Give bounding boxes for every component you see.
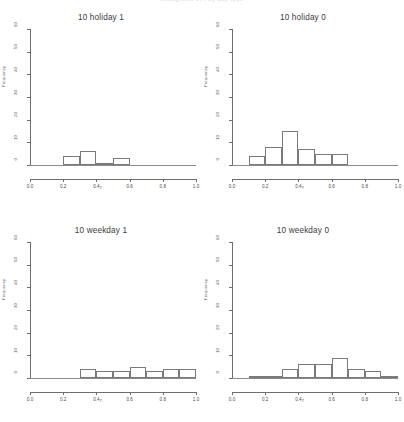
plot-area: Frequencyr01020304050600.00.20.40.60.81.…: [202, 9, 404, 205]
y-axis-tick-label: 30: [14, 90, 18, 104]
y-axis-tick: [229, 97, 232, 98]
y-axis-tick-label: 50: [14, 258, 18, 272]
histogram-baseline: [30, 165, 196, 166]
y-axis-tick: [27, 52, 30, 53]
x-axis-tick-label: 0.4: [87, 397, 105, 402]
histogram-bar: [265, 147, 282, 165]
y-axis-tick: [229, 265, 232, 266]
y-axis-tick: [27, 142, 30, 143]
x-axis-tick-label: 0.0: [21, 397, 39, 402]
y-axis-tick-label: 0: [14, 158, 18, 172]
y-axis-tick: [27, 97, 30, 98]
y-axis-tick-label: 60: [216, 235, 220, 249]
y-axis-tick-label: 40: [216, 280, 220, 294]
x-axis-tick-label: 0.4: [87, 184, 105, 189]
x-axis-tick-label: 0.2: [54, 184, 72, 189]
histogram-bar: [163, 369, 180, 378]
x-axis-tick: [298, 179, 299, 182]
x-axis-tick-label: 0.6: [323, 397, 341, 402]
x-axis-tick: [365, 179, 366, 182]
histogram-baseline: [232, 165, 398, 166]
histogram-baseline: [232, 378, 398, 379]
y-axis-tick-label: 10: [216, 135, 220, 149]
x-axis-tick: [163, 179, 164, 182]
x-axis-tick: [265, 179, 266, 182]
y-axis-tick: [229, 242, 232, 243]
x-axis-tick-label: 0.4: [289, 397, 307, 402]
x-axis-tick-label: 0.6: [323, 184, 341, 189]
x-axis-line: [232, 179, 398, 180]
x-axis-tick-label: 0.0: [223, 184, 241, 189]
x-axis-tick-label: 0.6: [121, 184, 139, 189]
x-axis-tick: [398, 179, 399, 182]
y-axis-tick-label: 50: [14, 45, 18, 59]
histogram-bar: [315, 154, 332, 165]
histogram-bar: [179, 369, 196, 378]
y-axis-line: [30, 29, 31, 165]
x-axis-tick-label: 0.8: [356, 184, 374, 189]
x-axis-tick: [30, 392, 31, 395]
x-axis-tick: [298, 392, 299, 395]
histogram-bar: [332, 358, 349, 378]
x-axis-tick: [163, 392, 164, 395]
histogram-bar: [80, 151, 97, 165]
histogram-baseline: [30, 378, 196, 379]
x-axis-tick: [196, 392, 197, 395]
y-axis-label: Frequency: [203, 279, 208, 300]
y-axis-tick: [27, 265, 30, 266]
y-axis-label: Frequency: [203, 66, 208, 87]
x-axis-tick-label: 1.0: [389, 397, 404, 402]
x-axis-tick-label: 0.0: [223, 397, 241, 402]
histogram-panel-holiday-1: 10 holiday 1 Frequencyr01020304050600.00…: [0, 9, 202, 205]
y-axis-tick: [229, 29, 232, 30]
y-axis-tick-label: 30: [14, 303, 18, 317]
x-axis-tick: [130, 392, 131, 395]
histogram-bar: [113, 371, 130, 378]
y-axis-tick-label: 0: [14, 371, 18, 385]
y-axis-tick-label: 60: [14, 235, 18, 249]
y-axis-tick: [27, 120, 30, 121]
x-axis-tick-label: 1.0: [389, 184, 404, 189]
y-axis-tick-label: 40: [14, 67, 18, 81]
y-axis-line: [30, 242, 31, 378]
y-axis-tick-label: 40: [14, 280, 18, 294]
histogram-bar: [113, 158, 130, 165]
histogram-bar: [282, 369, 299, 378]
x-axis-tick-label: 0.0: [21, 184, 39, 189]
x-axis-tick: [130, 179, 131, 182]
plot-area: Frequencyr01020304050600.00.20.40.60.81.…: [0, 222, 202, 418]
histogram-bar: [130, 367, 147, 378]
x-axis-tick: [332, 392, 333, 395]
histogram-panel-weekday-1: 10 weekday 1 Frequencyr01020304050600.00…: [0, 222, 202, 418]
x-axis-tick: [30, 179, 31, 182]
y-axis-tick-label: 20: [216, 326, 220, 340]
y-axis-tick-label: 20: [14, 326, 18, 340]
x-axis-line: [30, 392, 196, 393]
y-axis-tick: [229, 120, 232, 121]
x-axis-tick: [96, 392, 97, 395]
y-axis-tick: [27, 287, 30, 288]
x-axis-tick: [63, 392, 64, 395]
x-axis-tick-label: 0.8: [154, 184, 172, 189]
histogram-bar: [298, 364, 315, 378]
x-axis-tick: [63, 179, 64, 182]
y-axis-tick: [229, 287, 232, 288]
y-axis-tick-label: 50: [216, 258, 220, 272]
histogram-bar: [80, 369, 97, 378]
y-axis-tick: [229, 52, 232, 53]
y-axis-tick-label: 60: [216, 22, 220, 36]
figure-canvas: histograms of r by day type 10 holiday 1…: [0, 0, 404, 422]
y-axis-tick-label: 0: [216, 158, 220, 172]
histogram-bar: [348, 369, 365, 378]
histogram-panel-weekday-0: 10 weekday 0 Frequencyr01020304050600.00…: [202, 222, 404, 418]
histogram-bar: [298, 149, 315, 165]
y-axis-label: Frequency: [1, 279, 6, 300]
y-axis-tick: [27, 333, 30, 334]
x-axis-tick: [232, 179, 233, 182]
x-axis-tick: [265, 392, 266, 395]
x-axis-tick-label: 0.4: [289, 184, 307, 189]
histogram-panel-holiday-0: 10 holiday 0 Frequencyr01020304050600.00…: [202, 9, 404, 205]
plot-area: Frequencyr01020304050600.00.20.40.60.81.…: [0, 9, 202, 205]
y-axis-line: [232, 29, 233, 165]
histogram-bar: [96, 163, 113, 165]
